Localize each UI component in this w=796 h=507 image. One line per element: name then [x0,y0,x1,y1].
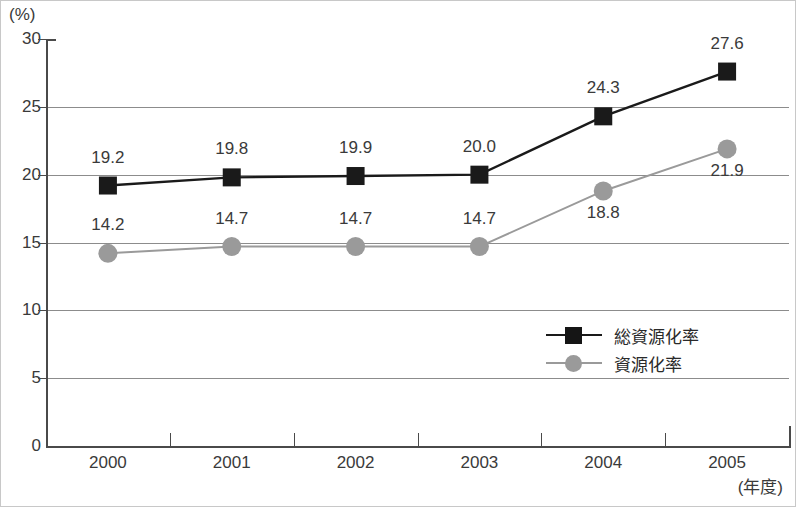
chart-legend: 総資源化率 資源化率 [546,321,746,377]
data-point-label: 24.3 [587,78,620,98]
axis-top-cap [46,39,56,41]
data-point-label: 21.9 [711,161,744,181]
square-marker [99,177,117,195]
legend-item-recycle: 資源化率 [546,349,746,377]
x-tick-mark [541,433,542,447]
data-point-label: 20.0 [463,137,496,157]
data-point-label: 14.2 [91,215,124,235]
data-point-label: 27.6 [711,34,744,54]
circle-marker [346,237,365,256]
square-marker-icon [546,325,602,345]
circle-marker [718,139,737,158]
data-point-label: 19.8 [215,139,248,159]
x-tick-label: 2004 [584,453,622,473]
x-tick-label: 2005 [708,453,746,473]
circle-marker-icon [546,353,602,373]
gridline [46,107,789,108]
axis-right-cap [789,426,791,448]
legend-item-total: 総資源化率 [546,321,746,349]
x-tick-label: 2002 [337,453,375,473]
x-axis-line [46,446,791,448]
circle-marker [222,237,241,256]
legend-label-total: 総資源化率 [614,323,699,348]
square-marker [718,63,736,81]
square-marker [223,168,241,186]
x-tick-label: 2001 [213,453,251,473]
y-axis-tick-labels: 051015202530 [1,1,41,507]
y-axis-line [46,39,48,448]
data-point-label: 19.2 [91,148,124,168]
y-tick-label: 30 [1,29,41,49]
series-line [108,149,727,253]
gridline [46,378,789,379]
x-tick-mark [170,433,171,447]
data-point-label: 14.7 [215,209,248,229]
series-line [108,72,727,186]
gridline [46,310,789,311]
legend-label-recycle: 資源化率 [614,351,682,376]
data-point-label: 18.8 [587,203,620,223]
circle-marker [470,237,489,256]
circle-marker [98,244,117,263]
square-marker [594,107,612,125]
y-tick-label: 25 [1,97,41,117]
circle-marker [594,181,613,200]
gridline [46,243,789,244]
gridline [46,175,789,176]
x-tick-mark [665,433,666,447]
x-tick-mark [294,433,295,447]
data-point-label: 19.9 [339,138,372,158]
x-axis-unit-label: (年度) [738,473,783,498]
line-chart: (%) 051015202530 20002001200220032004200… [0,0,796,507]
x-tick-label: 2003 [460,453,498,473]
data-point-label: 14.7 [463,209,496,229]
series-lines-layer [1,1,796,507]
y-tick-label: 0 [1,436,41,456]
x-tick-label: 2000 [89,453,127,473]
y-tick-label: 20 [1,165,41,185]
y-tick-label: 10 [1,300,41,320]
y-tick-label: 15 [1,233,41,253]
y-tick-label: 5 [1,368,41,388]
data-point-label: 14.7 [339,209,372,229]
x-tick-mark [418,433,419,447]
square-marker [347,167,365,185]
